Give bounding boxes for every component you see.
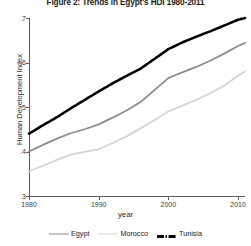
x-tick-label: 2000 xyxy=(153,201,183,209)
series-line-tunisia xyxy=(29,18,245,134)
legend-item-morocco[interactable]: Morocco xyxy=(98,230,148,238)
legend-swatch-egypt xyxy=(49,230,69,238)
x-tick-mark xyxy=(238,196,239,200)
chart-figure: Figure 2: Trends in Egypt's HDI 1980-201… xyxy=(0,0,251,246)
x-tick-mark xyxy=(168,196,169,200)
y-tick-label: .3 xyxy=(12,193,26,200)
legend-label-tunisia: Tunisia xyxy=(179,230,202,238)
series-lines xyxy=(29,18,245,196)
legend-item-egypt[interactable]: Egypt xyxy=(49,230,89,238)
series-line-morocco xyxy=(29,71,245,171)
x-tick-label: 1990 xyxy=(84,201,114,209)
x-axis-line xyxy=(29,196,245,197)
plot-area xyxy=(29,18,245,196)
chart-legend: Egypt Morocco Tunisia xyxy=(0,230,251,238)
legend-label-morocco: Morocco xyxy=(120,230,148,238)
y-axis-title: Human Development Index xyxy=(15,25,24,175)
x-tick-label: 2010 xyxy=(223,201,251,209)
x-tick-mark xyxy=(29,196,30,200)
legend-label-egypt: Egypt xyxy=(71,230,89,238)
x-tick-mark xyxy=(99,196,100,200)
chart-title: Figure 2: Trends in Egypt's HDI 1980-201… xyxy=(0,0,251,7)
x-axis-title: year xyxy=(0,210,251,219)
legend-swatch-morocco xyxy=(98,230,118,238)
legend-swatch-tunisia xyxy=(157,230,177,238)
x-tick-label: 1980 xyxy=(14,201,44,209)
y-tick-label: .7 xyxy=(12,15,26,22)
series-line-egypt xyxy=(29,43,245,152)
legend-item-tunisia[interactable]: Tunisia xyxy=(157,230,202,238)
